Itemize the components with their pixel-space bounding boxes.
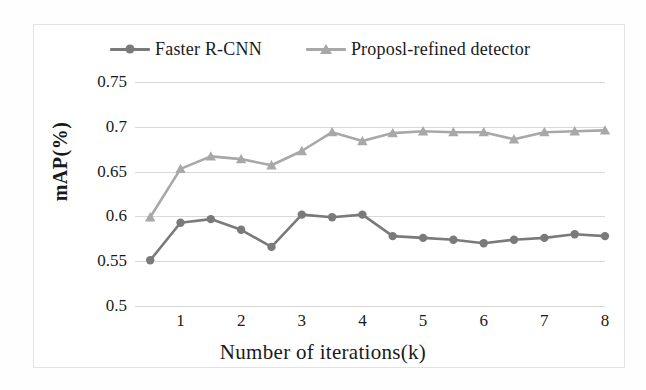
data-point-circle bbox=[237, 226, 245, 234]
chart-figure: Faster R-CNN Proposl-refined detector 0.… bbox=[0, 0, 646, 390]
data-point-circle bbox=[328, 213, 336, 221]
series-line-2 bbox=[150, 130, 605, 217]
y-tick-label: 0.75 bbox=[97, 73, 127, 90]
legend-label-series1: Faster R-CNN bbox=[155, 40, 262, 58]
series-lines bbox=[135, 82, 605, 306]
series-line-1 bbox=[150, 215, 605, 261]
data-point-circle bbox=[267, 243, 275, 251]
legend-label-series2: Proposl-refined detector bbox=[351, 40, 530, 58]
x-axis-title: Number of iterations(k) bbox=[0, 340, 646, 365]
data-point-circle bbox=[389, 232, 397, 240]
y-tick-label: 0.7 bbox=[106, 118, 127, 135]
triangle-marker-icon bbox=[320, 44, 332, 54]
x-tick-label: 1 bbox=[160, 312, 200, 329]
gridline bbox=[135, 306, 605, 307]
data-point-triangle bbox=[327, 127, 337, 136]
y-tick-label: 0.65 bbox=[97, 163, 127, 180]
data-point-circle bbox=[540, 234, 548, 242]
data-point-circle bbox=[480, 239, 488, 247]
x-tick-label: 5 bbox=[403, 312, 443, 329]
y-tick-label: 0.6 bbox=[106, 207, 127, 224]
legend-line-series2 bbox=[306, 48, 346, 51]
data-point-circle bbox=[419, 234, 427, 242]
data-point-circle bbox=[146, 256, 154, 264]
x-axis-ticks: 12345678 bbox=[0, 312, 646, 338]
x-tick-label: 7 bbox=[524, 312, 564, 329]
y-axis-title: mAP(%) bbox=[49, 92, 72, 232]
x-tick-label: 6 bbox=[464, 312, 504, 329]
data-point-circle bbox=[358, 210, 366, 218]
y-tick-label: 0.55 bbox=[97, 252, 127, 269]
data-point-circle bbox=[176, 219, 184, 227]
data-point-circle bbox=[449, 236, 457, 244]
x-tick-label: 4 bbox=[342, 312, 382, 329]
plot-area bbox=[135, 82, 605, 306]
legend-item-faster-rcnn: Faster R-CNN bbox=[110, 40, 262, 58]
legend-item-proposl-refined-detector: Proposl-refined detector bbox=[306, 40, 530, 58]
data-point-circle bbox=[298, 210, 306, 218]
data-point-circle bbox=[571, 230, 579, 238]
x-tick-label: 3 bbox=[282, 312, 322, 329]
data-point-circle bbox=[510, 236, 518, 244]
chart-legend: Faster R-CNN Proposl-refined detector bbox=[110, 36, 570, 62]
x-tick-label: 2 bbox=[221, 312, 261, 329]
x-tick-label: 8 bbox=[585, 312, 625, 329]
data-point-circle bbox=[207, 215, 215, 223]
data-point-triangle bbox=[297, 146, 307, 155]
data-point-circle bbox=[601, 232, 609, 240]
